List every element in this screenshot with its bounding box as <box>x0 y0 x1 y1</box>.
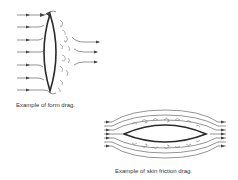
skin-friction-figure <box>104 110 226 158</box>
incoming-flow-arrows <box>17 11 56 94</box>
form-drag-figure <box>17 11 100 94</box>
wake-eddies <box>58 20 70 92</box>
boundary-layer-eddies <box>132 119 200 149</box>
skin-friction-body <box>124 125 206 142</box>
form-drag-body <box>44 14 56 91</box>
outgoing-flow-arrows <box>72 37 100 65</box>
form-drag-caption: Example of form drag. <box>16 102 75 108</box>
drag-diagrams <box>0 0 238 180</box>
skin-friction-caption: Example of skin friction drag. <box>115 168 192 174</box>
